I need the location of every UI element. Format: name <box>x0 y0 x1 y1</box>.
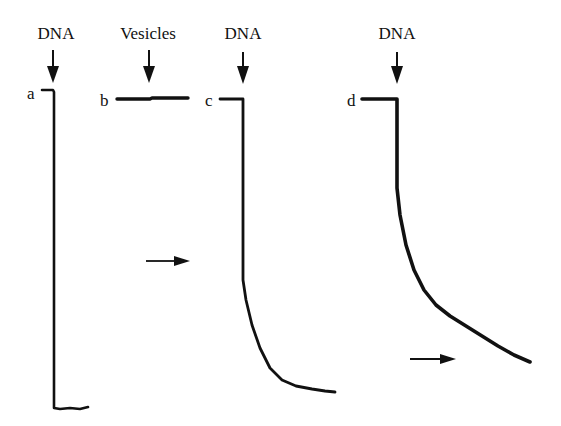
panel-label-a: a <box>27 84 35 103</box>
trace-b <box>117 98 188 99</box>
label-vesicles-b: Vesicles <box>120 24 176 43</box>
right-arrow-icon <box>146 256 190 266</box>
label-dna-a: DNA <box>38 24 76 43</box>
down-arrow-icon <box>391 52 403 84</box>
panel-label-d: d <box>347 91 356 110</box>
horizontal-arrows <box>146 256 456 364</box>
panel-label-b: b <box>100 91 109 110</box>
trace-a <box>42 90 88 409</box>
kinetic-traces-figure: DNA Vesicles DNA DNA a b c d <box>0 0 561 426</box>
panel-label-c: c <box>205 91 213 110</box>
label-dna-d: DNA <box>379 24 417 43</box>
down-arrow-icon <box>143 50 155 83</box>
down-arrow-icon <box>237 52 249 84</box>
down-arrow-icon <box>47 50 59 83</box>
trace-d <box>362 99 530 362</box>
right-arrow-icon <box>410 354 456 364</box>
trace-c <box>220 99 335 392</box>
label-dna-c: DNA <box>225 24 263 43</box>
trace-group <box>42 90 530 409</box>
